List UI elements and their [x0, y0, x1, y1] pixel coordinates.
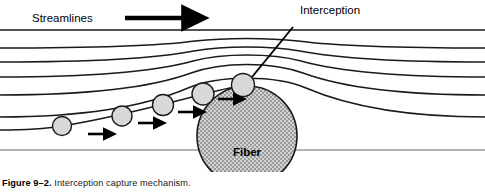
particle-3: [153, 95, 174, 116]
streamlines-label: Streamlines: [32, 12, 93, 24]
interception-label: Interception: [300, 4, 360, 16]
figure-container: Fiber Streamlines Interception Figure 9–…: [0, 0, 485, 194]
particle-2: [112, 106, 132, 126]
fiber-label: Fiber: [233, 146, 262, 158]
figure-number: Figure 9–2.: [2, 178, 52, 188]
interception-diagram: Fiber Streamlines Interception: [0, 0, 485, 172]
figure-caption: Figure 9–2. Interception capture mechani…: [2, 177, 191, 189]
particle-1: [53, 117, 72, 136]
particle-5-intercepted: [232, 74, 255, 97]
leader-line-icon-interception: [252, 27, 293, 77]
figure-caption-text: Interception capture mechanism.: [52, 178, 191, 188]
particle-4: [192, 83, 214, 105]
